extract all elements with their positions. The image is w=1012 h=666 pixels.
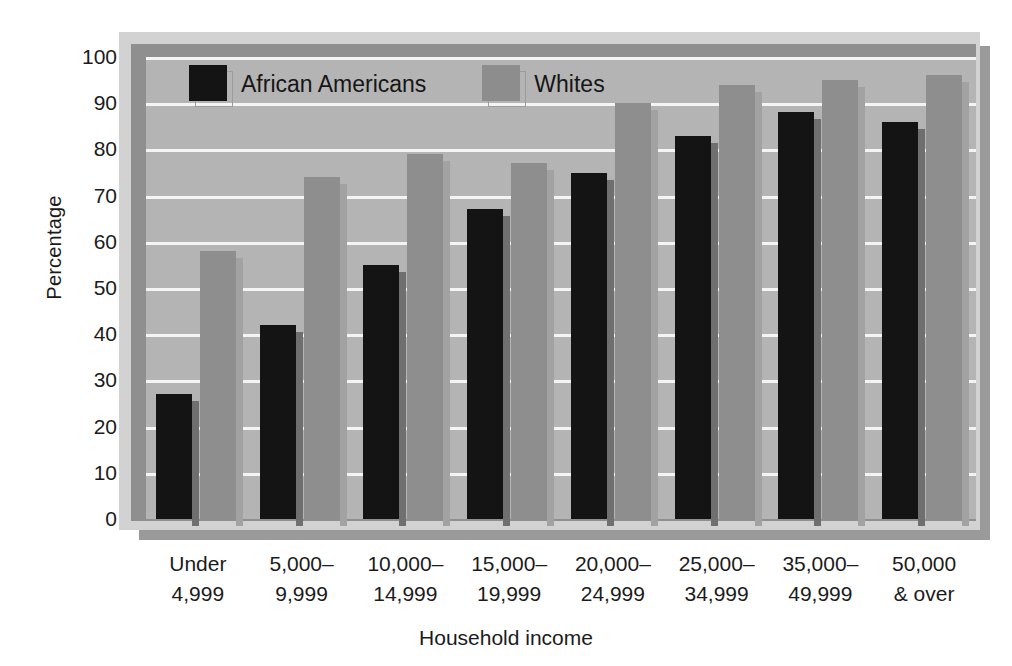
bar-face	[363, 265, 399, 519]
bar	[156, 394, 192, 519]
y-tick-label: 90	[55, 92, 117, 113]
x-tick-label: 25,000–34,999	[665, 549, 769, 609]
bar-shadow	[858, 87, 865, 526]
chart-legend: African AmericansWhites	[189, 62, 661, 106]
x-tick-label: 5,000–9,999	[250, 549, 354, 609]
bar-face	[822, 80, 858, 519]
bar-shadow	[547, 170, 554, 526]
bar-shadow	[503, 216, 510, 526]
y-tick-label: 100	[55, 46, 117, 67]
bar-shadow	[192, 401, 199, 526]
bar-shadow	[918, 129, 925, 526]
bar	[822, 80, 858, 519]
y-tick-label: 80	[55, 138, 117, 159]
y-tick-label: 60	[55, 231, 117, 252]
x-tick-label: 35,000–49,999	[769, 549, 873, 609]
bar-face	[200, 251, 236, 519]
bar-face	[304, 177, 340, 519]
legend-swatch-black	[189, 65, 229, 103]
bar	[304, 177, 340, 519]
x-tick-label: 10,000–14,999	[354, 549, 458, 609]
bar	[200, 251, 236, 519]
bar-group	[354, 57, 458, 519]
x-tick-label-line: 49,999	[769, 579, 873, 609]
bar	[511, 163, 547, 519]
bar	[363, 265, 399, 519]
y-axis-tick-labels: 1009080706050403020100	[55, 0, 117, 666]
legend-label: Whites	[534, 71, 604, 98]
bar-face	[882, 122, 918, 519]
y-tick-label: 20	[55, 416, 117, 437]
bar	[467, 209, 503, 519]
y-tick-label: 70	[55, 185, 117, 206]
bar-group	[872, 57, 976, 519]
x-tick-label-line: 15,000–	[457, 549, 561, 579]
x-tick-label-line: 19,999	[457, 579, 561, 609]
bar-shadow	[814, 119, 821, 526]
bar-face	[719, 85, 755, 519]
legend-item: African Americans	[189, 65, 426, 103]
bar-group	[561, 57, 665, 519]
bar-shadow	[651, 110, 658, 526]
x-tick-label: Under4,999	[146, 549, 250, 609]
bar-shadow	[340, 184, 347, 526]
legend-swatch-white	[482, 65, 522, 103]
bar	[571, 173, 607, 520]
legend-label: African Americans	[241, 71, 426, 98]
legend-item: Whites	[482, 65, 604, 103]
bar	[778, 112, 814, 519]
x-tick-label: 50,000& over	[872, 549, 976, 609]
bar	[615, 103, 651, 519]
x-axis-tick-labels: Under4,9995,000–9,99910,000–14,99915,000…	[146, 549, 976, 619]
bar-face	[778, 112, 814, 519]
y-tick-label: 40	[55, 323, 117, 344]
bar-shadow	[607, 180, 614, 527]
x-axis-title: Household income	[0, 626, 1012, 650]
y-tick-label: 10	[55, 462, 117, 483]
bar	[407, 154, 443, 519]
x-tick-label-line: 10,000–	[354, 549, 458, 579]
y-tick-label: 0	[55, 508, 117, 529]
x-tick-label-line: 35,000–	[769, 549, 873, 579]
x-tick-label-line: 50,000	[872, 549, 976, 579]
x-tick-label-line: 4,999	[146, 579, 250, 609]
bar-face	[511, 163, 547, 519]
legend-swatch-face	[482, 65, 520, 101]
bar-face	[467, 209, 503, 519]
x-tick-label-line: 14,999	[354, 579, 458, 609]
x-tick-label-line: 5,000–	[250, 549, 354, 579]
x-tick-label-line: 20,000–	[561, 549, 665, 579]
bar	[675, 136, 711, 519]
bar-shadow	[711, 143, 718, 526]
bar-face	[926, 75, 962, 519]
x-tick-label: 15,000–19,999	[457, 549, 561, 609]
legend-swatch-face	[189, 65, 227, 101]
bar-group	[769, 57, 873, 519]
bar-face	[615, 103, 651, 519]
bar-group	[146, 57, 250, 519]
y-tick-label: 30	[55, 369, 117, 390]
bar-chart-figure: Percentage 1009080706050403020100 Africa…	[0, 0, 1012, 666]
bar	[719, 85, 755, 519]
x-tick-label-line: Under	[146, 549, 250, 579]
bar-shadow	[399, 272, 406, 526]
y-tick-label: 50	[55, 277, 117, 298]
x-tick-label-line: 25,000–	[665, 549, 769, 579]
bar-face	[675, 136, 711, 519]
bar	[260, 325, 296, 519]
bar-group	[457, 57, 561, 519]
bar-group	[665, 57, 769, 519]
x-tick-label-line: 9,999	[250, 579, 354, 609]
bar-shadow	[236, 258, 243, 526]
x-tick-label-line: & over	[872, 579, 976, 609]
bar-shadow	[443, 161, 450, 526]
bar-face	[407, 154, 443, 519]
bar	[882, 122, 918, 519]
bar	[926, 75, 962, 519]
bar-group	[250, 57, 354, 519]
bar-series-container	[146, 57, 976, 519]
bar-shadow	[755, 92, 762, 526]
x-tick-label-line: 34,999	[665, 579, 769, 609]
x-tick-label-line: 24,999	[561, 579, 665, 609]
bar-face	[260, 325, 296, 519]
